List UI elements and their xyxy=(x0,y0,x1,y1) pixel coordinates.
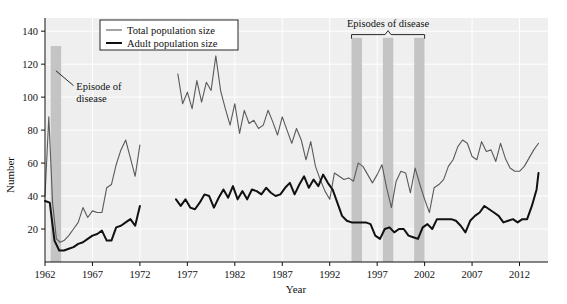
x-tick-label: 1992 xyxy=(319,269,340,280)
y-axis-title: Number xyxy=(4,157,16,193)
x-tick-label: 1962 xyxy=(35,269,56,280)
x-axis-title: Year xyxy=(286,283,307,295)
x-tick-label: 1982 xyxy=(224,269,245,280)
x-tick-label: 2007 xyxy=(462,269,483,280)
y-tick-label: 120 xyxy=(22,59,38,70)
y-tick-label: 100 xyxy=(22,92,38,103)
legend-label: Adult population size xyxy=(127,38,218,49)
y-tick-label: 20 xyxy=(28,224,39,235)
y-tick-label: 40 xyxy=(28,191,39,202)
band-1994 xyxy=(352,38,362,262)
x-tick-label: 2002 xyxy=(414,269,435,280)
y-tick-label: 80 xyxy=(28,125,39,136)
x-tick-label: 1997 xyxy=(367,269,388,280)
x-tick-label: 1967 xyxy=(82,269,103,280)
annotation-text-line2: disease xyxy=(76,93,107,104)
population-size-line-chart: 2040608010012014019621967197219771982198… xyxy=(0,0,567,304)
x-tick-label: 2012 xyxy=(509,269,530,280)
x-tick-label: 1972 xyxy=(129,269,150,280)
legend-label: Total population size xyxy=(127,25,215,36)
y-tick-label: 60 xyxy=(28,158,39,169)
x-tick-label: 1977 xyxy=(177,269,198,280)
y-tick-label: 140 xyxy=(22,26,38,37)
legend: Total population sizeAdult population si… xyxy=(100,20,238,50)
annotation-text: Episodes of disease xyxy=(347,18,430,29)
annotation-text-line1: Episode of xyxy=(76,81,122,92)
x-tick-label: 1987 xyxy=(272,269,293,280)
